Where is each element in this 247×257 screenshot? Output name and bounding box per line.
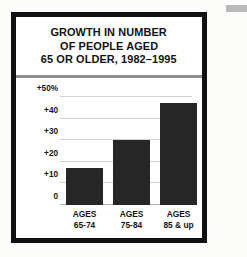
- page-corner-mark: [226, 5, 247, 12]
- x-tick-label-2-line1: AGES: [106, 209, 158, 220]
- y-tick-label-10: +10: [20, 171, 58, 179]
- bar-2: [113, 140, 150, 205]
- chart-figure-inner: GROWTH IN NUMBER OF PEOPLE AGED 65 OR OL…: [16, 17, 202, 238]
- chart-title-line-1: GROWTH IN NUMBER: [51, 26, 167, 40]
- y-tick-label-50: +50%: [20, 85, 58, 93]
- x-tick-label-3: AGES85 & up: [153, 209, 205, 230]
- chart-title: GROWTH IN NUMBER OF PEOPLE AGED 65 OR OL…: [16, 17, 202, 74]
- x-tick-label-1: AGES65-74: [59, 209, 111, 230]
- x-tick-label-1-line2: 65-74: [59, 220, 111, 231]
- x-axis-labels: AGES65-74AGES75-84AGES85 & up: [60, 209, 192, 239]
- grid-region: [60, 97, 192, 205]
- chart-title-line-2: OF PEOPLE AGED: [60, 40, 158, 54]
- bar-3: [160, 103, 197, 205]
- chart-figure: GROWTH IN NUMBER OF PEOPLE AGED 65 OR OL…: [11, 12, 207, 243]
- x-tick-label-2-line2: 75-84: [106, 220, 158, 231]
- y-tick-label-0: 0: [20, 193, 58, 201]
- title-divider: [16, 75, 202, 78]
- bar-series: [60, 97, 192, 205]
- bar-1: [66, 168, 103, 205]
- x-tick-label-3-line1: AGES: [153, 209, 205, 220]
- y-tick-label-20: +20: [20, 150, 58, 158]
- y-tick-label-40: +40: [20, 107, 58, 115]
- x-tick-label-2: AGES75-84: [106, 209, 158, 230]
- chart-title-line-3: 65 OR OLDER, 1982–1995: [41, 53, 177, 67]
- x-tick-label-1-line1: AGES: [59, 209, 111, 220]
- y-tick-label-30: +30: [20, 128, 58, 136]
- x-tick-label-3-line2: 85 & up: [153, 220, 205, 231]
- plot-area: 0+10+20+30+40+50% AGES65-74AGES75-84AGES…: [16, 79, 202, 238]
- y-axis-labels: 0+10+20+30+40+50%: [16, 97, 58, 205]
